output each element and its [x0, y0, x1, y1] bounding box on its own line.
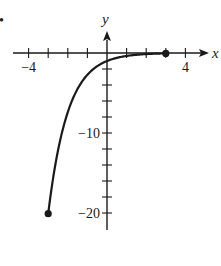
- axes: [13, 31, 209, 230]
- y-axis-arrow-icon: [103, 31, 111, 41]
- endpoint-dot: [162, 50, 169, 57]
- chart-plot: • −44−10−20 x y: [0, 0, 221, 266]
- y-tick-label: −20: [78, 206, 100, 221]
- y-axis-label: y: [100, 11, 109, 27]
- x-axis-label: x: [211, 45, 219, 61]
- x-tick-label: 4: [182, 60, 189, 75]
- endpoint-dot: [45, 210, 52, 217]
- problem-marker: •: [0, 13, 4, 28]
- y-tick-label: −10: [78, 126, 100, 141]
- x-tick-label: −4: [21, 60, 36, 75]
